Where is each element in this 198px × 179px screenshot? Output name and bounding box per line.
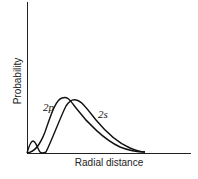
label-2p: 2p <box>43 101 55 113</box>
orbital-probability-chart: 2p 2s Probability Radial distance <box>0 0 198 179</box>
y-axis-label: Probability <box>12 58 23 105</box>
x-axis-label: Radial distance <box>75 157 144 168</box>
label-2s: 2s <box>98 108 108 120</box>
